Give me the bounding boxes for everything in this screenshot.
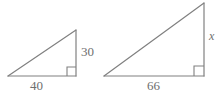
- left-triangle: [8, 30, 76, 76]
- right-triangle-height-label: x: [209, 30, 214, 42]
- right-triangle-hypotenuse: [104, 3, 204, 76]
- left-triangle-base-label: 40: [30, 79, 43, 92]
- geometry-figure: 40 30 66 x: [0, 0, 223, 94]
- right-triangle-base-label: 66: [147, 79, 160, 92]
- left-triangle-right-angle-marker: [67, 67, 76, 76]
- right-triangle-right-angle-marker: [194, 66, 204, 76]
- left-triangle-hypotenuse: [8, 30, 76, 76]
- right-triangle: [104, 3, 204, 76]
- left-triangle-height-label: 30: [81, 45, 94, 58]
